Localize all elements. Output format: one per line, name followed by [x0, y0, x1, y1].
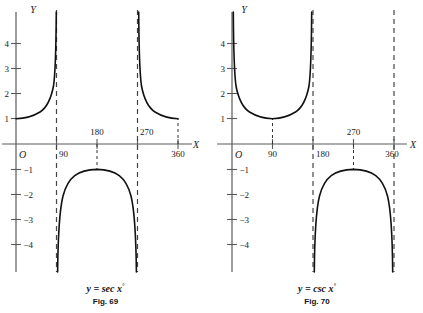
figure-number: Fig. 69 — [0, 297, 211, 306]
x-tick-label-90: 90 — [268, 149, 278, 159]
x-tick-label-360: 360 — [385, 149, 399, 159]
y-tick-label: 4 — [221, 39, 226, 49]
origin-label: O — [235, 149, 242, 160]
y-axis-label: Y — [241, 4, 248, 15]
caption-eq: = csc — [303, 283, 329, 294]
figure-caption: y = sec x° — [0, 283, 211, 294]
y-tick-label: 4 — [5, 39, 10, 49]
x-axis-label: X — [192, 139, 200, 150]
x-tick-label-270: 270 — [347, 127, 361, 137]
caption-degree: ° — [334, 283, 336, 289]
x-tick-label-360: 360 — [171, 149, 185, 159]
origin-label: O — [19, 149, 26, 160]
figure-caption: y = csc x° — [211, 283, 423, 294]
y-tick-label: −3 — [239, 215, 249, 225]
y-tick-label: −1 — [239, 165, 249, 175]
figures-page: 4 3 2 1 −1 −2 −3 −4 90 180 270 360 — [0, 0, 423, 313]
figure-number: Fig. 70 — [211, 297, 423, 306]
caption-degree: ° — [122, 283, 124, 289]
figure-sec: 4 3 2 1 −1 −2 −3 −4 90 180 270 360 — [0, 0, 211, 313]
x-tick-label-180: 180 — [90, 127, 104, 137]
y-axis-label: Y — [30, 4, 37, 15]
csc-branch-0-180 — [233, 12, 311, 119]
figure-csc: 4 3 2 1 −1 −2 −3 −4 90 180 270 360 — [211, 0, 423, 313]
sec-branch-90-270 — [58, 169, 137, 272]
sec-branch-0-90 — [16, 12, 56, 119]
y-tick-label: 3 — [5, 64, 10, 74]
sec-plot-svg: 4 3 2 1 −1 −2 −3 −4 90 180 270 360 — [0, 0, 211, 280]
x-axis-label: X — [409, 139, 417, 150]
x-tick-label-180: 180 — [316, 149, 330, 159]
y-tick-label: −1 — [23, 165, 33, 175]
y-tick-label: −2 — [23, 190, 33, 200]
y-tick-label: 3 — [221, 64, 226, 74]
y-tick-label: −2 — [239, 190, 249, 200]
y-tick-label: −3 — [23, 215, 33, 225]
x-tick-labels: 90 180 270 360 — [59, 127, 185, 159]
csc-plot-svg: 4 3 2 1 −1 −2 −3 −4 90 180 270 360 — [211, 0, 423, 280]
y-tick-label: 1 — [5, 114, 10, 124]
y-tick-label: 2 — [221, 89, 226, 99]
y-tick-label: −4 — [23, 240, 33, 250]
y-tick-label: 2 — [5, 89, 10, 99]
caption-eq: = sec — [91, 283, 117, 294]
x-tick-label-90: 90 — [59, 149, 69, 159]
y-tick-label: 1 — [221, 114, 226, 124]
csc-branch-180-360 — [314, 169, 392, 272]
y-tick-label: −4 — [239, 240, 249, 250]
x-tick-label-270: 270 — [140, 127, 154, 137]
sec-branch-270-360 — [139, 12, 178, 119]
x-tick-labels: 90 180 270 360 — [268, 127, 399, 159]
